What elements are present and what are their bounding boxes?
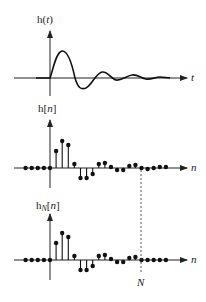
stem-dot [66,235,70,239]
stem-dot [121,168,125,172]
stem-dot [115,168,119,172]
stem-dot [109,165,113,169]
stem-dot [158,258,162,262]
hn-xlabel: n [191,161,197,173]
stem-dot [97,162,101,166]
stem-dot [164,165,168,169]
ht-ylabel: h(t) [37,13,53,26]
stem-dot [127,164,131,168]
stem-dot [103,253,107,257]
truncation-label-N: N [136,276,145,288]
stem-dot [78,176,82,180]
stem-dot [84,268,88,272]
hn-ylabel: h[n] [38,102,56,114]
stem-dot [158,165,162,169]
stem-dot [152,258,156,262]
stem-dot [60,231,64,235]
stem-dot [72,162,76,166]
stem-dot [48,258,52,262]
diagram-canvas: h(t) t h[n] n hN[n] n N [0,0,206,302]
stem-dot [30,258,34,262]
ht-curve [36,51,170,89]
stem-dot [42,166,46,170]
stem-dot [145,167,149,171]
stem-dot [30,166,34,170]
stem-dot [42,258,46,262]
stem-dot [60,139,64,143]
truncated-plot: hN[n] n N [14,199,197,288]
stem-dot [97,254,101,258]
stem-dot [115,260,119,264]
stem-dot [133,163,137,167]
stem-dot [36,258,40,262]
stem-dot [103,161,107,165]
stem-dot [36,166,40,170]
stem-dot [109,257,113,261]
stem-dot [72,254,76,258]
ht-xlabel: t [191,71,195,83]
stem-dot [54,241,58,245]
stem-dot [23,258,27,262]
hN-ylabel: hN[n] [36,199,60,213]
stem-dot [91,172,95,176]
hN-xlabel: n [191,253,197,265]
discrete-plot: h[n] n [14,102,197,188]
stem-dot [164,258,168,262]
stem-dot [121,260,125,264]
stem-dot [139,166,143,170]
stem-dot [133,255,137,259]
stem-dot [91,264,95,268]
stem-dot [48,166,52,170]
stem-dot [66,143,70,147]
stem-dot [145,258,149,262]
continuous-plot: h(t) t [14,13,195,96]
stem-dot [152,166,156,170]
stem-dot [84,176,88,180]
stem-dot [78,268,82,272]
stem-dot [139,258,143,262]
hn-stems [23,139,168,180]
stem-dot [23,166,27,170]
stem-dot [54,149,58,153]
hN-stems [23,231,168,272]
stem-dot [127,256,131,260]
